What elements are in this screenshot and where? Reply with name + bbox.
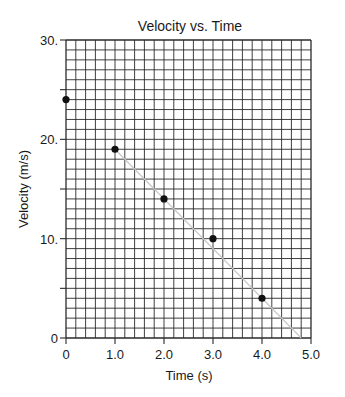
chart-title: Velocity vs. Time <box>138 18 242 34</box>
y-tick-label: 30. <box>40 33 58 48</box>
x-axis-label: Time (s) <box>165 368 212 383</box>
y-tick-label: 20. <box>40 132 58 147</box>
x-tick-label: 1.0 <box>106 347 124 362</box>
y-tick-labels: 010.20.30. <box>40 33 58 346</box>
y-axis-label: Velocity (m/s) <box>16 150 31 228</box>
best-fit-line <box>115 149 301 338</box>
x-tick-label: 3.0 <box>204 347 222 362</box>
x-tick-label: 4.0 <box>253 347 271 362</box>
data-point <box>258 295 265 302</box>
x-tick-label: 0 <box>62 347 69 362</box>
fit-line <box>115 149 301 338</box>
x-tick-label: 2.0 <box>155 347 173 362</box>
data-point <box>111 146 118 153</box>
data-point <box>160 195 167 202</box>
x-tick-label: 5.0 <box>302 347 320 362</box>
data-point <box>62 96 69 103</box>
x-tick-labels: 01.02.03.04.05.0 <box>62 347 320 362</box>
y-tick-label: 0 <box>51 331 58 346</box>
velocity-time-chart: Velocity vs. Time 01.02.03.04.05.0 010.2… <box>0 0 345 397</box>
y-tick-label: 10. <box>40 232 58 247</box>
plot-grid <box>66 40 311 338</box>
data-point <box>209 235 216 242</box>
